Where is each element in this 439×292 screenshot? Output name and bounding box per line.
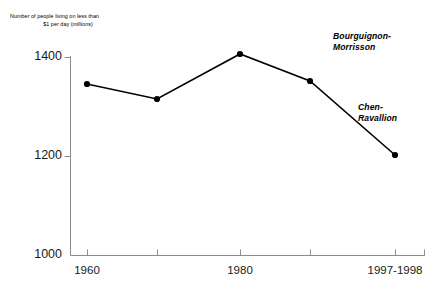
data-series-group bbox=[84, 51, 398, 158]
data-point-marker bbox=[84, 81, 90, 87]
data-point-marker bbox=[307, 78, 313, 84]
data-point-marker bbox=[154, 96, 160, 102]
data-line bbox=[87, 54, 395, 155]
chart-container: Number of people living on less than $1 … bbox=[0, 0, 439, 292]
axes-group bbox=[65, 56, 426, 256]
chart-plot-svg bbox=[0, 0, 439, 292]
data-point-marker bbox=[392, 152, 398, 158]
data-point-marker bbox=[237, 51, 243, 57]
